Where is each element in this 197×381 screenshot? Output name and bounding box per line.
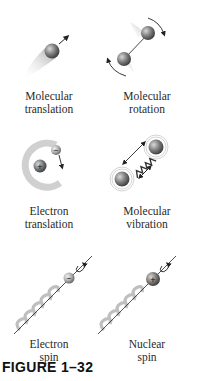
molecular-vibration-illustration — [98, 125, 197, 200]
label-line2: translation — [0, 218, 98, 231]
label-molecular-translation: Molecular translation — [0, 90, 98, 116]
nuclear-spin-illustration: + — [98, 250, 197, 335]
panel-electron-translation: + − Electron translation — [0, 125, 98, 245]
label-line1: Electron — [0, 205, 98, 218]
label-line1: Nuclear — [98, 338, 196, 351]
panel-nuclear-spin: + Nuclear spin — [98, 250, 196, 350]
panel-electron-spin: − Electron spin — [0, 250, 98, 350]
minus-symbol: − — [67, 274, 72, 283]
label-line2: rotation — [98, 103, 196, 116]
electron-translation-illustration: + − — [0, 125, 98, 200]
label-line2: translation — [0, 103, 98, 116]
minus-symbol: − — [54, 146, 59, 155]
label-line1: Molecular — [98, 90, 196, 103]
plus-symbol: + — [37, 162, 42, 172]
panel-molecular-vibration: Molecular vibration — [98, 125, 196, 245]
label-line1: Molecular — [0, 90, 98, 103]
electron-spin-illustration: − — [0, 250, 98, 335]
panel-molecular-translation: Molecular translation — [0, 0, 98, 120]
label-molecular-vibration: Molecular vibration — [98, 205, 196, 231]
molecular-rotation-illustration — [98, 0, 197, 85]
plus-symbol: + — [150, 275, 155, 285]
label-nuclear-spin: Nuclear spin — [98, 338, 196, 364]
label-line1: Electron — [0, 338, 98, 351]
label-line1: Molecular — [98, 205, 196, 218]
molecular-translation-illustration — [0, 0, 98, 85]
label-line2: vibration — [98, 218, 196, 231]
figure-caption: FIGURE 1–32 — [2, 359, 93, 375]
label-molecular-rotation: Molecular rotation — [98, 90, 196, 116]
panel-molecular-rotation: Molecular rotation — [98, 0, 196, 120]
label-line2: spin — [98, 351, 196, 364]
label-electron-translation: Electron translation — [0, 205, 98, 231]
